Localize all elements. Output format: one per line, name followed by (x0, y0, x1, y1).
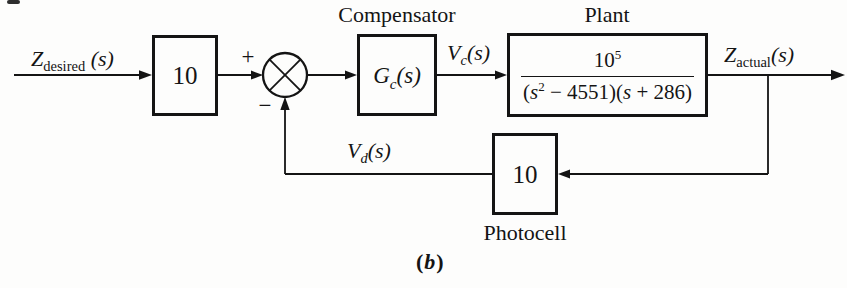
arrowhead-output (831, 70, 845, 80)
plant-denominator: (s2 − 4551)(s + 286) (521, 77, 694, 104)
plant-title: Plant (527, 3, 687, 27)
zactual-base: Z (724, 42, 736, 67)
plant-num-base: 10 (594, 48, 615, 72)
zdesired-arg: (s) (85, 46, 114, 71)
block-diagram-figure: Zdesired (s) 10 + − Compensator Gc(s) Vc… (0, 0, 847, 288)
plant-block: 105 (s2 − 4551)(s + 286) (507, 33, 708, 117)
arrowhead-into-photocell (558, 170, 570, 179)
compensator-title: Compensator (317, 3, 477, 27)
signal-label-zactual: Zactual(s) (724, 43, 794, 67)
zactual-arg: (s) (771, 42, 794, 67)
signal-label-zdesired: Zdesired (s) (31, 47, 114, 71)
den-end: + 286) (631, 80, 692, 104)
den-open-paren: ( (523, 80, 530, 104)
arrowhead-into-junction (251, 71, 263, 80)
input-gain-block: 10 (152, 35, 218, 116)
signal-label-vd: Vd(s) (347, 139, 391, 163)
plant-transfer-function: 105 (s2 − 4551)(s + 286) (521, 46, 694, 104)
photocell-block: 10 (492, 133, 558, 215)
zactual-subscript: actual (736, 54, 771, 70)
gc-subscript: c (390, 74, 397, 91)
gc-arg: (s) (397, 63, 421, 88)
arrowhead-into-junction-bottom (280, 97, 289, 110)
photocell-gain-value: 10 (513, 162, 538, 187)
photocell-title: Photocell (445, 221, 605, 245)
den-s1: s (530, 80, 538, 104)
signal-label-vc: Vc(s) (447, 41, 490, 65)
figure-caption: (b) (416, 250, 444, 274)
vc-arg: (s) (467, 40, 490, 65)
input-gain-value: 10 (173, 63, 198, 88)
junction-minus-sign: − (255, 93, 275, 118)
compensator-block: Gc(s) (357, 34, 437, 116)
zdesired-subscript: desired (43, 58, 85, 74)
plant-num-exponent: 5 (615, 47, 622, 62)
junction-plus-sign: + (238, 44, 258, 69)
arrowhead-into-plant (495, 71, 507, 80)
arrowhead-into-compensator (345, 71, 357, 80)
den-s2: s (623, 80, 631, 104)
vd-arg: (s) (368, 138, 391, 163)
vd-subscript: d (360, 150, 367, 166)
gc-base: G (373, 63, 390, 88)
compensator-transfer-function: Gc(s) (373, 64, 421, 87)
plant-numerator: 105 (521, 46, 694, 77)
zdesired-base: Z (31, 46, 43, 71)
vd-base: V (347, 138, 360, 163)
arrowhead-into-gain (139, 70, 152, 79)
vc-base: V (447, 40, 460, 65)
den-middle: − 4551)( (545, 80, 623, 104)
caption-letter: b (423, 249, 436, 274)
summing-junction (263, 53, 307, 97)
caption-close-paren: ) (436, 249, 443, 274)
scan-artifact (7, 0, 20, 4)
